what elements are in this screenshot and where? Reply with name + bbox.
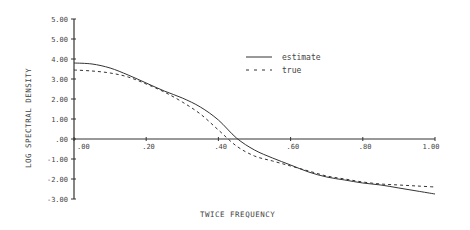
x-tick-label: .80 [359, 143, 372, 151]
y-axis-title: LOG SPECTRAL DENSITY [24, 68, 33, 168]
legend-label-true: true [282, 66, 301, 75]
y-tick-label: 3.00 [51, 76, 68, 84]
x-axis: .00.20.40.60.801.00 [74, 137, 439, 151]
y-axis: 5.005.004.003.002.001.00.00-1.00-2.00-3.… [47, 16, 76, 204]
y-tick-label: -2.00 [47, 176, 68, 184]
series-true-line [74, 70, 435, 187]
y-tick-label: 4.00 [51, 56, 68, 64]
x-tick-label: .20 [142, 143, 155, 151]
x-axis-title: TWICE FREQUENCY [200, 210, 275, 219]
legend-label-estimate: estimate [282, 53, 321, 62]
x-tick-label: .40 [214, 143, 227, 151]
x-tick-label: .60 [287, 143, 300, 151]
y-tick-label: 5.00 [51, 36, 68, 44]
x-tick-label: .00 [77, 143, 90, 151]
series-layer [74, 63, 435, 194]
y-tick-label: .00 [55, 136, 68, 144]
y-tick-label: 1.00 [51, 116, 68, 124]
x-tick-label: 1.00 [423, 143, 440, 151]
y-tick-label: 5.00 [51, 16, 68, 24]
spectral-density-chart: 5.005.004.003.002.001.00.00-1.00-2.00-3.… [0, 0, 470, 230]
series-estimate-line [74, 63, 435, 194]
y-tick-label: -1.00 [47, 156, 68, 164]
legend: estimate true [246, 53, 321, 75]
y-tick-label: 2.00 [51, 96, 68, 104]
y-tick-label: -3.00 [47, 196, 68, 204]
